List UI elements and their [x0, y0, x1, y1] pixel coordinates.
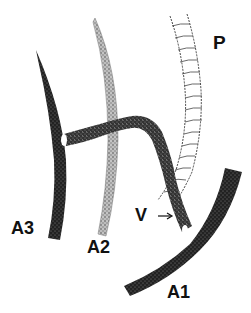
- label-v: V: [135, 206, 147, 224]
- label-a2: A2: [87, 238, 110, 256]
- label-p: P: [213, 33, 226, 52]
- label-a3: A3: [11, 219, 34, 237]
- vessel-diagram: P A3 A2 A1 V: [0, 0, 251, 313]
- v-arrow-icon: [158, 213, 172, 219]
- vessel-a3: [36, 50, 66, 240]
- connecting-vessel: [61, 116, 192, 235]
- label-a1: A1: [167, 283, 190, 301]
